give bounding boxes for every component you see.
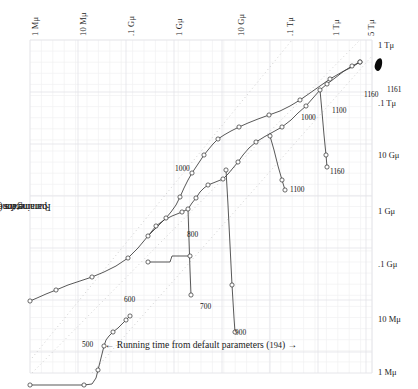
marker: [178, 195, 182, 199]
point-label-900-5: 900: [235, 328, 246, 337]
point-label-600-2: 600: [124, 295, 135, 304]
marker: [206, 183, 210, 187]
y-title-b: parameters (•) →: [0, 201, 47, 212]
marker: [324, 153, 328, 157]
top-tick-0: 1 Mμ: [30, 17, 40, 36]
point-label-1160-10: 1160: [330, 167, 345, 176]
top-tick-2: .1 Gμ: [126, 16, 136, 36]
marker: [54, 288, 58, 292]
marker: [318, 88, 322, 92]
marker: [82, 383, 86, 387]
point-label-800-4: 800: [187, 230, 198, 239]
top-tick-4: 10 Gμ: [236, 14, 246, 36]
marker: [128, 314, 132, 318]
top-tick-1: 10 Mμ: [78, 12, 88, 36]
marker: [280, 178, 284, 182]
marker: [280, 125, 284, 129]
marker: [164, 216, 168, 220]
right-tick-0: 1 Tμ: [378, 40, 394, 50]
marker: [111, 330, 115, 334]
marker: [224, 168, 228, 172]
top-tick-3: 1 Gμ: [174, 18, 184, 36]
right-tick-6: 1 Mμ: [378, 367, 397, 377]
marker: [283, 188, 287, 192]
marker: [189, 293, 193, 297]
x-axis-title: ← Running time from default parameters (…: [30, 339, 372, 350]
marker: [325, 165, 329, 169]
marker: [350, 64, 354, 68]
marker: [268, 134, 272, 138]
marker: [358, 60, 362, 64]
marker: [267, 113, 271, 117]
data-point-markers: [30, 40, 372, 373]
marker: [146, 260, 150, 264]
x-title-suffix: ) →: [282, 339, 297, 350]
marker: [328, 77, 332, 81]
marker: [96, 368, 100, 372]
marker: [221, 177, 225, 181]
marker: [230, 283, 234, 287]
marker: [146, 234, 150, 238]
point-label-1100-8: 1100: [290, 185, 305, 194]
point-label-1000-6: 1000: [175, 164, 190, 173]
dense-cluster-1161-blob: [374, 57, 384, 71]
figure-root: 1 Mμ10 Mμ.1 Gμ1 Gμ10 Gμ.1 Tμ1 Tμ5 Tμ 1 T…: [0, 0, 418, 389]
marker: [254, 140, 258, 144]
marker: [124, 318, 128, 322]
marker: [194, 196, 198, 200]
marker: [190, 171, 194, 175]
marker: [236, 160, 240, 164]
point-label-700-3: 700: [200, 302, 211, 311]
marker: [180, 210, 184, 214]
marker: [90, 275, 94, 279]
marker: [28, 299, 32, 303]
marker: [188, 254, 192, 258]
point-label-1160-11: 1160: [364, 90, 379, 99]
marker: [126, 256, 130, 260]
plot-area: 4005006007008009001000100011001100116011…: [30, 40, 372, 373]
marker: [202, 153, 206, 157]
point-label-1100-9: 1100: [332, 106, 347, 115]
right-tick-1: .1 Tμ: [378, 98, 396, 108]
x-arrow-left: ←: [105, 339, 115, 350]
top-tick-6: 1 Tμ: [331, 19, 341, 36]
top-tick-5: .1 Tμ: [285, 17, 295, 36]
marker: [298, 98, 302, 102]
marker: [304, 104, 308, 108]
right-tick-2: 10 Gμ: [378, 150, 399, 160]
x-title-text: Running time from default parameters (: [117, 339, 270, 350]
y-axis-title: ← Running time from erdos parameters (•)…: [6, 40, 22, 373]
point-label-1000-7: 1000: [301, 113, 316, 122]
x-title-count: 194: [269, 341, 282, 350]
right-tick-4: .1 Gμ: [378, 259, 397, 269]
marker: [325, 82, 329, 86]
marker: [186, 207, 190, 211]
right-tick-3: 1 Gμ: [378, 206, 395, 216]
marker: [237, 125, 241, 129]
marker: [216, 137, 220, 141]
marker: [154, 224, 158, 228]
top-tick-7: 5 Tμ: [366, 19, 376, 36]
point-label-1161-12: 1161: [387, 85, 402, 94]
marker: [28, 383, 32, 387]
right-tick-5: 10 Mμ: [378, 314, 401, 324]
